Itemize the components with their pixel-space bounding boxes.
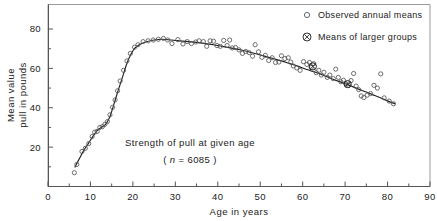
- x-axis-tick-label: 40: [212, 191, 223, 202]
- chart-svg: 0102030405060708090 20406080 Age in year…: [0, 0, 437, 221]
- annotation-title: Strength of pull at given age: [125, 137, 255, 148]
- x-axis-tick-label: 60: [297, 191, 308, 202]
- x-axis-tick-label: 10: [85, 191, 96, 202]
- x-axis-tick-label: 80: [382, 191, 393, 202]
- x-axis-tick-label: 50: [255, 191, 266, 202]
- x-axis-tick-label: 90: [424, 191, 435, 202]
- x-axis-title: Age in years: [210, 206, 269, 217]
- legend-label-means-of-larger-groups: Means of larger groups: [318, 32, 417, 42]
- y-axis-tick-label: 60: [30, 63, 41, 74]
- annotation-sample-size: ( n = 6085 ): [163, 154, 217, 165]
- annotation-n-value: = 6085 ): [175, 154, 216, 165]
- y-axis-tick-label: 80: [30, 23, 41, 34]
- y-axis-tick-label: 20: [30, 142, 41, 153]
- x-axis-tick-label: 70: [339, 191, 350, 202]
- x-axis-tick-label: 20: [127, 191, 138, 202]
- y-axis-tick-label: 40: [30, 102, 41, 113]
- legend-label-observed-annual-means: Observed annual means: [318, 10, 423, 20]
- x-axis-tick-label: 0: [45, 191, 51, 202]
- y-axis-title-line2: pull in pounds: [17, 62, 28, 128]
- x-axis-tick-label: 30: [170, 191, 181, 202]
- chart-figure: 0102030405060708090 20406080 Age in year…: [0, 0, 437, 221]
- y-axis-title-line1: Mean value: [5, 68, 16, 122]
